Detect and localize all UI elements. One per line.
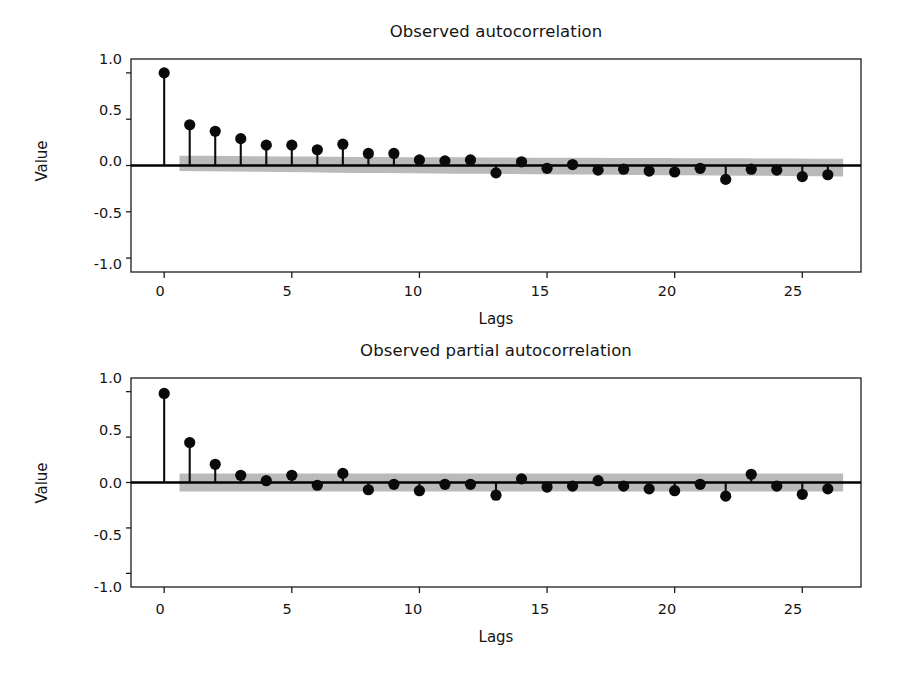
data-point-marker xyxy=(337,139,348,150)
y-tick-label: 1.0 xyxy=(62,370,122,386)
data-point-marker xyxy=(388,148,399,159)
data-point-marker xyxy=(439,155,450,166)
data-point-marker xyxy=(286,470,297,481)
data-point-marker xyxy=(210,459,221,470)
data-point-marker xyxy=(822,169,833,180)
data-point-marker xyxy=(465,154,476,165)
y-tick-label: -1.0 xyxy=(55,579,122,595)
data-point-marker xyxy=(797,489,808,500)
data-point-marker xyxy=(746,164,757,175)
y-tick-label: 0.5 xyxy=(62,422,122,438)
data-point-marker xyxy=(312,144,323,155)
x-tick-label: 10 xyxy=(393,601,433,617)
data-point-marker xyxy=(159,388,170,399)
y-tick-label: -0.5 xyxy=(55,205,122,221)
data-point-marker xyxy=(184,437,195,448)
data-point-marker xyxy=(771,165,782,176)
confidence-band xyxy=(180,474,844,492)
data-point-marker xyxy=(363,148,374,159)
plot-frame xyxy=(131,378,861,587)
data-point-marker xyxy=(618,164,629,175)
data-point-marker xyxy=(414,485,425,496)
data-point-marker xyxy=(822,483,833,494)
y-tick-label: -1.0 xyxy=(55,256,122,272)
data-point-marker xyxy=(669,485,680,496)
y-tick-label: 0.5 xyxy=(62,102,122,118)
chart-title-pacf: Observed partial autocorrelation xyxy=(131,341,861,360)
data-point-marker xyxy=(363,484,374,495)
data-point-marker xyxy=(388,479,399,490)
data-point-marker xyxy=(695,163,706,174)
x-axis-label-acf: Lags xyxy=(131,310,861,328)
figure-canvas: Observed autocorrelation Value Lags 1.0 … xyxy=(0,0,905,681)
data-point-marker xyxy=(567,481,578,492)
x-tick-label: 25 xyxy=(773,601,813,617)
data-point-marker xyxy=(644,165,655,176)
data-point-marker xyxy=(567,159,578,170)
y-tick-label: -0.5 xyxy=(55,527,122,543)
data-point-marker xyxy=(312,480,323,491)
x-tick-label: 15 xyxy=(520,601,560,617)
plot-frame xyxy=(131,59,861,272)
data-point-marker xyxy=(286,140,297,151)
y-axis-label-pacf: Value xyxy=(33,453,51,513)
x-tick-label: 25 xyxy=(773,283,813,299)
data-point-marker xyxy=(797,171,808,182)
data-point-marker xyxy=(746,469,757,480)
y-tick-label: 0.0 xyxy=(62,153,122,169)
data-point-marker xyxy=(490,167,501,178)
data-point-marker xyxy=(771,481,782,492)
data-point-marker xyxy=(541,163,552,174)
data-point-marker xyxy=(439,479,450,490)
chart-title-acf: Observed autocorrelation xyxy=(131,22,861,41)
data-point-marker xyxy=(669,166,680,177)
data-point-marker xyxy=(720,174,731,185)
data-point-marker xyxy=(618,481,629,492)
data-point-marker xyxy=(184,119,195,130)
data-point-marker xyxy=(516,473,527,484)
x-tick-label: 5 xyxy=(267,601,307,617)
x-tick-label: 10 xyxy=(393,283,433,299)
data-point-marker xyxy=(720,491,731,502)
y-tick-label: 1.0 xyxy=(62,51,122,67)
data-point-marker xyxy=(159,67,170,78)
data-point-marker xyxy=(490,490,501,501)
x-axis-label-pacf: Lags xyxy=(131,628,861,646)
data-point-marker xyxy=(235,133,246,144)
stem-series xyxy=(159,67,834,185)
x-tick-label: 5 xyxy=(267,283,307,299)
x-tick-label: 0 xyxy=(140,283,180,299)
data-point-marker xyxy=(516,156,527,167)
data-point-marker xyxy=(695,479,706,490)
y-tick-label: 0.0 xyxy=(62,475,122,491)
data-point-marker xyxy=(592,475,603,486)
confidence-band xyxy=(180,156,844,177)
data-point-marker xyxy=(465,479,476,490)
data-point-marker xyxy=(414,154,425,165)
data-point-marker xyxy=(235,470,246,481)
data-point-marker xyxy=(261,475,272,486)
data-point-marker xyxy=(541,481,552,492)
data-point-marker xyxy=(261,140,272,151)
data-point-marker xyxy=(210,126,221,137)
x-tick-label: 20 xyxy=(647,601,687,617)
x-tick-label: 20 xyxy=(647,283,687,299)
stem-series xyxy=(159,388,834,502)
data-point-marker xyxy=(592,165,603,176)
data-point-marker xyxy=(337,468,348,479)
x-tick-label: 15 xyxy=(520,283,560,299)
data-point-marker xyxy=(644,483,655,494)
x-tick-label: 0 xyxy=(140,601,180,617)
y-axis-label-acf: Value xyxy=(33,131,51,191)
